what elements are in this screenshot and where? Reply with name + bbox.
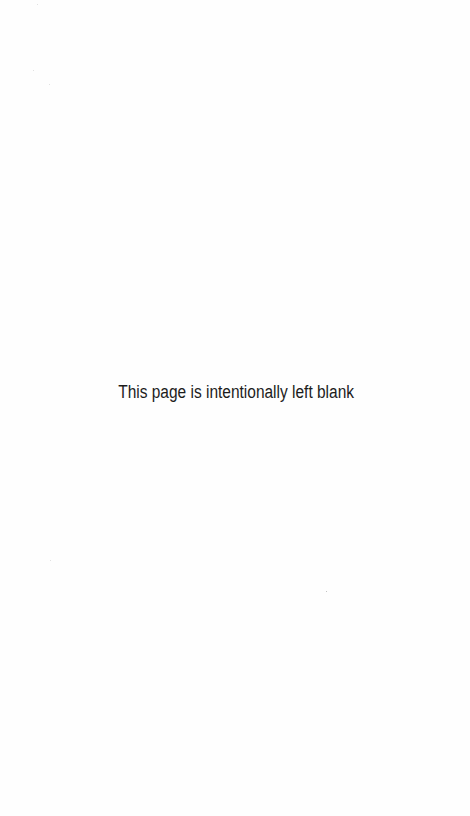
- blank-page-notice: This page is intentionally left blank: [34, 380, 438, 404]
- scan-speck: [37, 4, 38, 5]
- scan-speck: [49, 84, 50, 85]
- scan-speck: [326, 591, 327, 592]
- blank-page: This page is intentionally left blank: [0, 0, 470, 816]
- scan-speck: [33, 70, 34, 71]
- scan-speck: [50, 560, 51, 561]
